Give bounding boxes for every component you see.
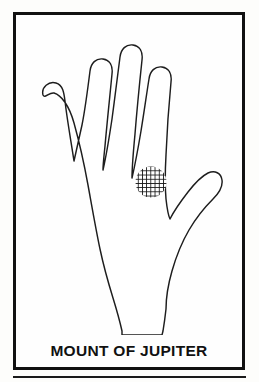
caption-band: MOUNT OF JUPITER xyxy=(16,335,242,367)
mount-of-jupiter-marker xyxy=(136,167,167,198)
hand-contour-path xyxy=(43,45,222,335)
hand-illustration xyxy=(16,15,242,335)
separator-rule xyxy=(13,376,246,378)
page-canvas: MOUNT OF JUPITER xyxy=(0,0,259,382)
hand-outline-svg xyxy=(16,15,242,335)
figure-box: MOUNT OF JUPITER xyxy=(13,12,245,370)
figure-caption: MOUNT OF JUPITER xyxy=(50,343,207,359)
